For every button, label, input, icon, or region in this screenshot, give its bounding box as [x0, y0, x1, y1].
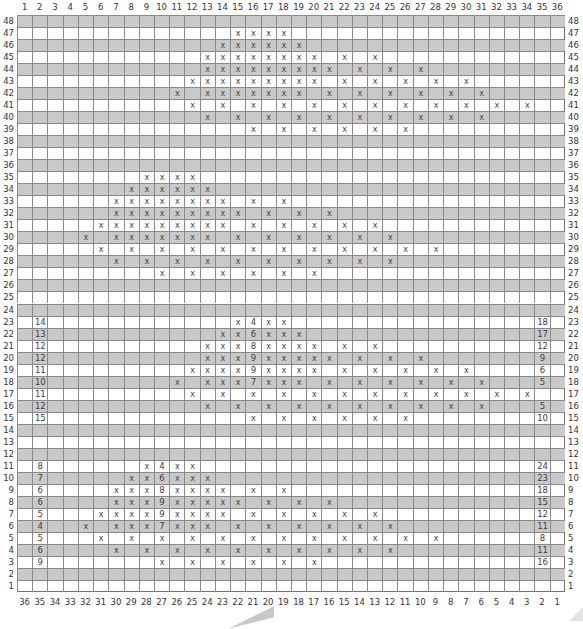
empty-cell — [352, 195, 367, 207]
empty-cell — [489, 568, 504, 580]
empty-cell — [489, 436, 504, 448]
empty-cell — [337, 279, 352, 291]
empty-cell — [519, 291, 534, 303]
empty-cell — [200, 99, 215, 111]
stitch-x-cell: x — [306, 243, 321, 255]
empty-cell — [17, 544, 32, 556]
stitch-x-cell: x — [184, 231, 199, 243]
empty-cell — [489, 279, 504, 291]
stitch-x-cell: x — [306, 508, 321, 520]
empty-cell — [230, 195, 245, 207]
empty-cell — [200, 556, 215, 568]
empty-cell — [32, 123, 47, 135]
empty-cell — [291, 291, 306, 303]
row-label: 7 — [9, 508, 14, 520]
stitch-x-cell: x — [184, 267, 199, 279]
empty-cell — [230, 279, 245, 291]
empty-cell — [550, 63, 565, 75]
stitch-x-cell: x — [397, 532, 412, 544]
empty-cell — [337, 328, 352, 340]
stitch-count-cell: 7 — [154, 520, 169, 532]
empty-cell — [413, 39, 428, 51]
empty-cell — [154, 135, 169, 147]
stitch-x-cell: x — [321, 352, 336, 364]
stitch-x-cell: x — [382, 87, 397, 99]
empty-cell — [428, 219, 443, 231]
stitch-x-cell: x — [169, 508, 184, 520]
empty-cell — [17, 267, 32, 279]
empty-cell — [474, 75, 489, 87]
empty-cell — [32, 51, 47, 63]
empty-cell — [306, 496, 321, 508]
stitch-x-cell: x — [276, 27, 291, 39]
empty-cell — [230, 508, 245, 520]
empty-cell — [47, 472, 62, 484]
row-label: 11 — [3, 460, 14, 472]
empty-cell — [291, 147, 306, 159]
stitch-x-cell: x — [245, 412, 260, 424]
empty-cell — [321, 472, 336, 484]
empty-cell — [184, 316, 199, 328]
empty-cell — [474, 496, 489, 508]
empty-cell — [169, 27, 184, 39]
stitch-x-cell: x — [306, 412, 321, 424]
stitch-x-cell: x — [474, 111, 489, 123]
empty-cell — [519, 15, 534, 27]
empty-cell — [397, 87, 412, 99]
empty-cell — [63, 340, 78, 352]
row-label: 26 — [3, 279, 14, 291]
stitch-count-cell: 9 — [154, 496, 169, 508]
empty-cell — [261, 267, 276, 279]
empty-cell — [519, 147, 534, 159]
empty-cell — [382, 340, 397, 352]
row-label: 38 — [568, 135, 579, 147]
stitch-x-cell: x — [397, 243, 412, 255]
stitch-x-cell: x — [337, 340, 352, 352]
stitch-x-cell: x — [124, 183, 139, 195]
empty-cell — [397, 267, 412, 279]
empty-cell — [382, 388, 397, 400]
empty-cell — [291, 472, 306, 484]
empty-cell — [504, 340, 519, 352]
stitch-x-cell: x — [261, 207, 276, 219]
empty-cell — [382, 508, 397, 520]
empty-cell — [108, 400, 123, 412]
empty-cell — [504, 580, 519, 592]
empty-cell — [352, 328, 367, 340]
empty-cell — [413, 328, 428, 340]
empty-cell — [474, 27, 489, 39]
empty-cell — [124, 544, 139, 556]
stitch-x-cell: x — [276, 87, 291, 99]
empty-cell — [519, 183, 534, 195]
stitch-x-cell: x — [245, 243, 260, 255]
empty-cell — [443, 496, 458, 508]
chart-row-21: 12xxx8xxxxxx12 — [17, 340, 565, 352]
row-label: 48 — [568, 15, 579, 27]
empty-cell — [291, 27, 306, 39]
stitch-count-cell: 11 — [534, 544, 549, 556]
chart-row-43: xxxxxxxxxxxxxx — [17, 75, 565, 87]
empty-cell — [47, 436, 62, 448]
empty-cell — [47, 544, 62, 556]
stitch-x-cell: x — [306, 388, 321, 400]
empty-cell — [108, 123, 123, 135]
empty-cell — [474, 532, 489, 544]
empty-cell — [352, 99, 367, 111]
empty-cell — [504, 63, 519, 75]
empty-cell — [93, 255, 108, 267]
empty-cell — [474, 544, 489, 556]
empty-cell — [32, 291, 47, 303]
empty-cell — [413, 340, 428, 352]
empty-cell — [47, 255, 62, 267]
column-label: 18 — [276, 2, 291, 12]
empty-cell — [63, 508, 78, 520]
stitch-x-cell: x — [184, 243, 199, 255]
empty-cell — [306, 448, 321, 460]
empty-cell — [169, 291, 184, 303]
empty-cell — [139, 243, 154, 255]
empty-cell — [63, 316, 78, 328]
empty-cell — [550, 436, 565, 448]
stitch-x-cell: x — [276, 267, 291, 279]
empty-cell — [154, 111, 169, 123]
empty-cell — [17, 532, 32, 544]
